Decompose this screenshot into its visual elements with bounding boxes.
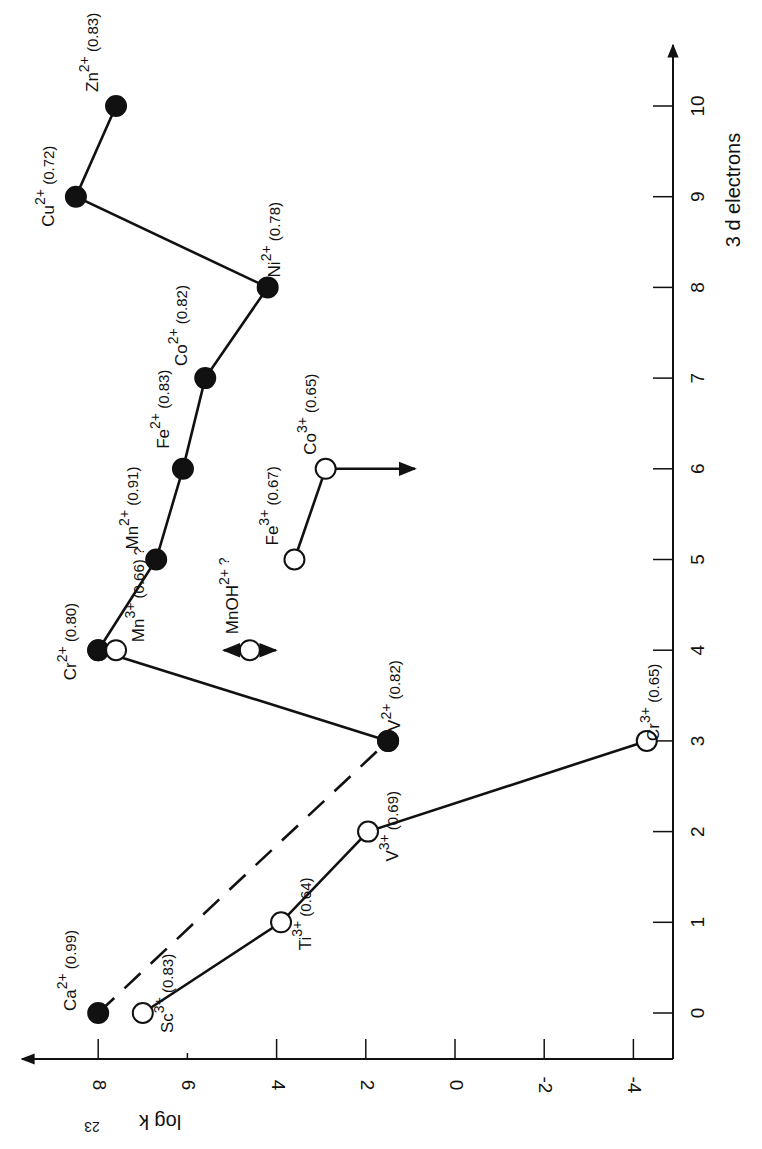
- point-label: MnOH2+ ?: [216, 557, 242, 634]
- point-label: Cr2+ (0.80): [54, 603, 80, 680]
- point-label: V2+ (0.82): [378, 660, 404, 731]
- point-label: Fe3+ (0.67): [256, 466, 282, 545]
- x-tick-label: 4: [687, 644, 708, 655]
- open-point: [271, 912, 291, 932]
- x-tick-label: 10: [687, 95, 708, 116]
- point-label: Sc3+ (0.83): [151, 954, 177, 1033]
- y-tick-label: 0: [446, 1080, 467, 1091]
- y-tick-label: -2: [535, 1077, 556, 1094]
- x-tick-label: 6: [687, 464, 708, 475]
- y-axis-title-subscript: 23: [84, 1119, 100, 1135]
- open-point: [106, 640, 126, 660]
- filled-point: [195, 368, 215, 388]
- series-line: [143, 741, 647, 1013]
- y-axis-title: log k: [138, 1111, 181, 1133]
- x-tick-label: 8: [687, 282, 708, 293]
- x-tick-label: 2: [687, 826, 708, 837]
- filled-point: [173, 459, 193, 479]
- filled-point: [106, 96, 126, 116]
- x-tick-label: 0: [687, 1008, 708, 1019]
- open-point: [358, 822, 378, 842]
- open-point: [284, 550, 304, 570]
- x-tick-label: 1: [687, 917, 708, 928]
- y-tick-label: 6: [178, 1080, 199, 1091]
- point-label: Co2+ (0.82): [165, 285, 191, 366]
- chart: 86420-2-4log k230123456789103 d electron…: [0, 0, 762, 1149]
- filled-point: [258, 277, 278, 297]
- open-point: [316, 459, 336, 479]
- y-tick-label: 8: [89, 1080, 110, 1091]
- open-point: [133, 1003, 153, 1023]
- series-line: [98, 650, 388, 741]
- x-tick-label: 7: [687, 373, 708, 384]
- x-axis-title: 3 d electrons: [722, 133, 744, 248]
- point-label: Cu2+ (0.72): [32, 146, 58, 227]
- point-label: Fe2+ (0.83): [147, 370, 173, 449]
- y-tick-label: 4: [268, 1080, 289, 1091]
- point-label: V3+ (0.69): [376, 791, 402, 862]
- series-line: [294, 469, 325, 560]
- point-labels: Ca2+ (0.99)Sc3+ (0.83)Ti3+ (0.64)V3+ (0.…: [32, 13, 663, 1033]
- point-label: Zn2+ (0.83): [76, 13, 102, 92]
- x-tick-label: 3: [687, 736, 708, 747]
- point-label: Co3+ (0.65): [294, 374, 320, 455]
- point-label: Ca2+ (0.99): [54, 930, 80, 1011]
- point-label: Mn2+ (0.91): [116, 467, 142, 550]
- y-tick-label: 2: [357, 1080, 378, 1091]
- filled-point: [66, 187, 86, 207]
- x-tick-label: 5: [687, 554, 708, 565]
- dashed-series-line: [98, 741, 388, 1013]
- point-label: Ti3+ (0.64): [289, 877, 315, 950]
- filled-point: [378, 731, 398, 751]
- filled-point: [146, 550, 166, 570]
- filled-point: [88, 1003, 108, 1023]
- point-label: Cr3+ (0.65): [637, 664, 663, 741]
- y-tick-label: -4: [624, 1077, 645, 1094]
- point-label: Ni2+ (0.78): [258, 202, 284, 277]
- open-point: [240, 640, 260, 660]
- point-label: Mn3+ (0.66) ?: [122, 547, 148, 642]
- x-tick-label: 9: [687, 191, 708, 202]
